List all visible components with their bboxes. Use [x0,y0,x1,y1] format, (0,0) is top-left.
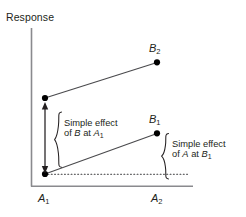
annotation-right-at: at [189,149,202,159]
annotation-left-line2: of B at A1 [64,128,118,138]
series-b2-subscript: 2 [156,47,160,56]
x-tick-label-a1: A1 [38,192,50,204]
x-tick-a2-subscript: 2 [158,197,162,206]
plot-canvas [0,0,246,217]
series-line-b2 [45,63,157,99]
data-point-b1-a2 [154,130,160,136]
annotation-simple-effect-b-at-a1: Simple effect of B at A1 [64,118,118,139]
annotation-left-of: of [64,128,74,138]
y-axis-title: Response [6,12,54,24]
series-label-b2: B2 [149,42,161,54]
annotation-left-subscript: 1 [100,132,104,139]
interaction-plot-figure: Response A1 A2 B2 B1 Simple effect of B … [0,0,246,217]
x-tick-a1-subscript: 1 [45,197,49,206]
x-tick-label-a2: A2 [151,192,163,204]
data-point-b2-a2 [154,59,160,65]
annotation-right-line2: of A at B1 [172,149,226,159]
annotation-simple-effect-a-at-b1: Simple effect of A at B1 [172,139,226,160]
annotation-right-factor-b: B [201,149,207,159]
annotation-left-factor-a: A [93,128,99,138]
annotation-right-of: of [172,149,182,159]
series-label-b1: B1 [149,113,161,125]
double-headed-arrow-b-at-a1 [42,102,48,174]
annotation-right-subscript: 1 [208,153,212,160]
annotation-left-at: at [81,128,94,138]
annotation-left-line1: Simple effect [64,118,118,128]
brace-left [55,112,62,167]
data-point-b2-a1 [42,95,48,101]
annotation-right-line1: Simple effect [172,139,226,149]
series-line-b1 [45,134,157,175]
series-b1-subscript: 1 [156,118,160,127]
brace-right [162,134,169,179]
